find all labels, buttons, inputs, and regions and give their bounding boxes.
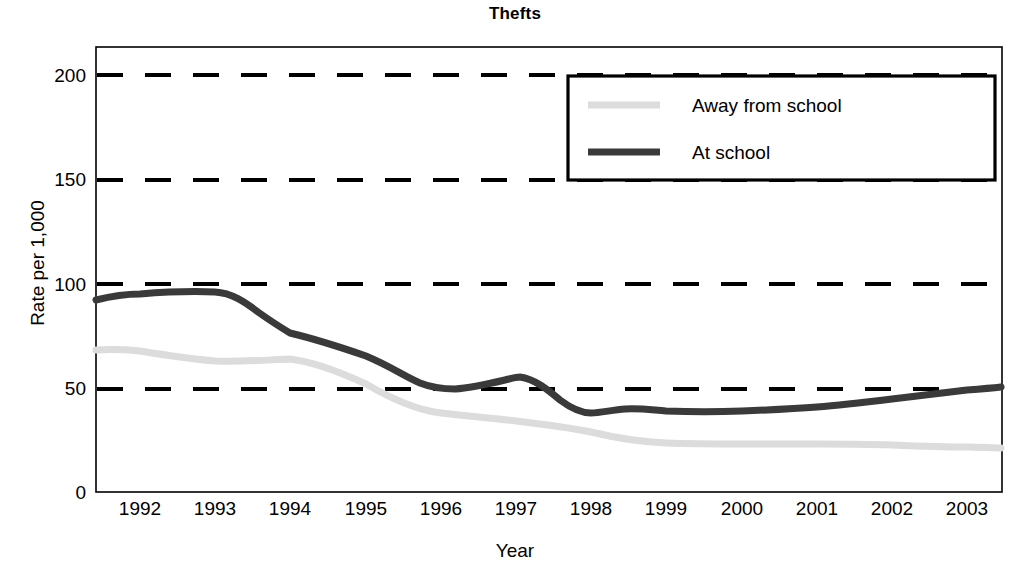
- legend-label-away-from-school: Away from school: [692, 95, 842, 117]
- legend-box: [568, 76, 995, 180]
- series-line-at-school: [96, 292, 1001, 413]
- chart-figure: Thefts Rate per 1,000 Year 200 150 100 5…: [0, 0, 1030, 587]
- plot-area: [0, 0, 1030, 587]
- legend-label-at-school: At school: [692, 142, 770, 164]
